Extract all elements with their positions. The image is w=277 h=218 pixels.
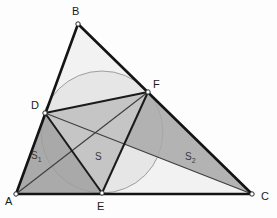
vertex-label-C: C [261, 191, 269, 202]
vertex-label-E: E [97, 201, 104, 212]
region-label-S2: S2 [185, 152, 196, 164]
vertex-marker-E [100, 191, 104, 195]
vertex-label-B: B [72, 6, 79, 17]
geometry-figure [0, 0, 277, 218]
vertex-marker-A [14, 192, 18, 196]
region-label-S1: S1 [31, 151, 42, 163]
region-label-subscript: 1 [38, 156, 42, 163]
vertex-label-A: A [5, 196, 12, 207]
figure-canvas: A B C D E F S1 S S2 [0, 0, 277, 218]
region-label-S: S [95, 152, 102, 162]
vertex-marker-D [43, 111, 47, 115]
vertex-label-D: D [31, 100, 39, 111]
vertex-marker-B [76, 22, 80, 26]
vertex-marker-C [250, 192, 254, 196]
vertex-marker-F [146, 90, 150, 94]
region-label-subscript: 2 [192, 157, 196, 164]
vertex-label-F: F [153, 79, 160, 90]
